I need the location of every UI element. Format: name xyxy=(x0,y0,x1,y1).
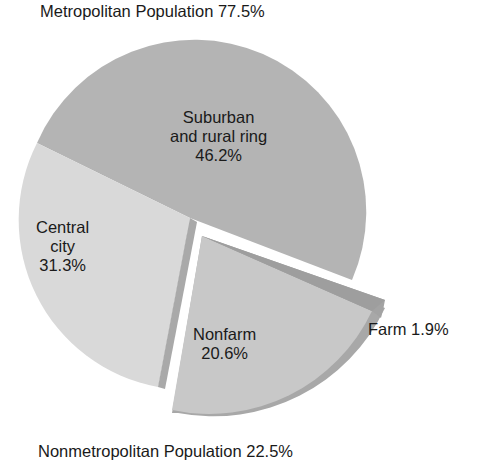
label-suburban-line1: Suburban xyxy=(170,108,267,127)
label-central-line2: city xyxy=(36,237,89,256)
label-nonfarm-line1: Nonfarm xyxy=(193,325,256,344)
label-nonfarm-pct: 20.6% xyxy=(193,344,256,363)
label-suburban: Suburban and rural ring 46.2% xyxy=(170,108,267,165)
label-suburban-line2: and rural ring xyxy=(170,127,267,146)
label-central-city: Central city 31.3% xyxy=(36,218,89,275)
label-nonfarm: Nonfarm 20.6% xyxy=(193,325,256,363)
label-suburban-pct: 46.2% xyxy=(170,146,267,165)
label-central-line1: Central xyxy=(36,218,89,237)
label-central-pct: 31.3% xyxy=(36,256,89,275)
label-farm: Farm 1.9% xyxy=(368,320,449,339)
chart-title-nonmetropolitan: Nonmetropolitan Population 22.5% xyxy=(38,442,293,461)
